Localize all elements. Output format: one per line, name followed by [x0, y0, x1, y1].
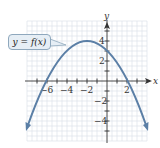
graph-canvas: x y −6 −4 −2 2 4 2 −2 −4	[0, 0, 160, 148]
y-tick-label: −2	[94, 96, 107, 106]
function-label-callout: y = f(x)	[8, 34, 51, 50]
x-tick-label: −4	[60, 85, 74, 95]
y-tick-label: −4	[94, 116, 108, 126]
x-axis-label: x	[153, 76, 158, 86]
y-tick-label: 2	[99, 56, 105, 66]
function-label-text: y = f(x)	[13, 37, 47, 47]
x-tick-label: 2	[124, 85, 130, 95]
callout-pointer	[50, 39, 66, 46]
y-axis-label: y	[103, 11, 110, 21]
x-tick-label: −2	[80, 85, 93, 95]
